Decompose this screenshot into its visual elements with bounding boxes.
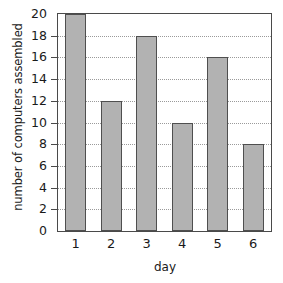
y-axis-tick-label: 10 bbox=[7, 117, 47, 129]
x-axis-tick-label: 4 bbox=[164, 236, 200, 252]
y-axis-tick-label: 4 bbox=[7, 182, 47, 194]
y-axis-tick-label: 0 bbox=[7, 225, 47, 237]
bar bbox=[101, 101, 122, 231]
x-axis-tick-label: 5 bbox=[200, 236, 236, 252]
plot-area bbox=[57, 13, 272, 232]
x-axis-tick-label: 3 bbox=[129, 236, 165, 252]
gridline bbox=[58, 123, 271, 124]
x-axis-title: day bbox=[57, 260, 273, 274]
y-axis-tick-label: 16 bbox=[7, 51, 47, 63]
x-axis-tick-label: 6 bbox=[235, 236, 271, 252]
y-axis-tick-label: 14 bbox=[7, 73, 47, 85]
y-axis-tick-label: 20 bbox=[7, 8, 47, 20]
y-axis-tick-label: 8 bbox=[7, 138, 47, 150]
gridline bbox=[58, 36, 271, 37]
bar bbox=[207, 57, 228, 231]
bar bbox=[172, 123, 193, 232]
gridline bbox=[58, 209, 271, 210]
bar-chart: number of computers assembled 0246810121… bbox=[0, 0, 283, 283]
y-axis-tick-label: 2 bbox=[7, 203, 47, 215]
bar bbox=[243, 144, 264, 231]
gridline bbox=[58, 144, 271, 145]
gridline bbox=[58, 166, 271, 167]
bar bbox=[136, 36, 157, 231]
x-axis-tick-label: 2 bbox=[93, 236, 129, 252]
gridline bbox=[58, 101, 271, 102]
gridline bbox=[58, 57, 271, 58]
gridline bbox=[58, 79, 271, 80]
x-axis-tick-label: 1 bbox=[58, 236, 94, 252]
gridline bbox=[58, 188, 271, 189]
bar bbox=[65, 14, 86, 231]
y-axis-tick-label: 18 bbox=[7, 30, 47, 42]
y-axis-tick-label: 6 bbox=[7, 160, 47, 172]
y-axis-tick-label: 12 bbox=[7, 95, 47, 107]
